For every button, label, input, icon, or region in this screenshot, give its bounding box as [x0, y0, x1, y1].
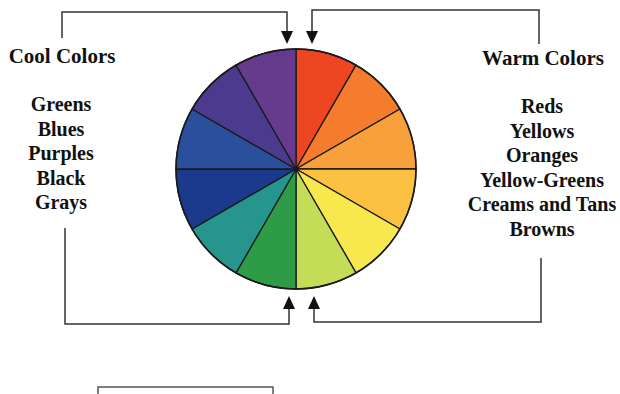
warm-color-item: Browns: [442, 217, 620, 242]
arrow-up-icon: [283, 296, 295, 309]
partial-box: [98, 387, 273, 394]
warm-color-item: Yellows: [442, 119, 620, 144]
warm-colors-heading: Warm Colors: [468, 46, 618, 70]
cool-top-connector: [62, 12, 287, 38]
warm-colors-list: RedsYellowsOrangesYellow-GreensCreams an…: [442, 94, 620, 242]
cool-color-item: Purples: [0, 141, 122, 166]
arrow-down-icon: [306, 31, 318, 44]
color-wheel: [176, 49, 416, 289]
cool-color-item: Black: [0, 166, 122, 191]
cool-color-item: Grays: [0, 190, 122, 215]
cool-color-item: Greens: [0, 92, 122, 117]
warm-color-item: Oranges: [442, 143, 620, 168]
arrow-up-icon: [308, 296, 320, 309]
cool-color-item: Blues: [0, 117, 122, 142]
cool-colors-list: GreensBluesPurplesBlackGrays: [0, 92, 122, 215]
warm-color-item: Reds: [442, 94, 620, 119]
arrow-down-icon: [281, 31, 293, 44]
cool-colors-heading: Cool Colors: [2, 44, 122, 68]
warm-top-connector: [312, 10, 539, 44]
warm-color-item: Yellow-Greens: [442, 168, 620, 193]
warm-color-item: Creams and Tans: [442, 192, 620, 217]
color-wheel-diagram: Cool Colors GreensBluesPurplesBlackGrays…: [0, 0, 620, 394]
